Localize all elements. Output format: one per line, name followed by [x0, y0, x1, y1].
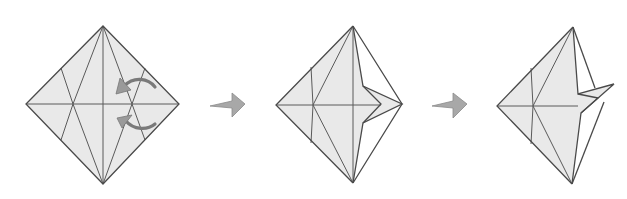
- step-2-diagram: [276, 26, 402, 183]
- step-1-diagram: [26, 26, 179, 184]
- right-arrow-icon: [432, 93, 467, 118]
- right-arrow-icon: [210, 93, 245, 117]
- origami-diagram: Square base with creases; two curved arr…: [0, 0, 627, 199]
- step-3-diagram: [497, 27, 614, 184]
